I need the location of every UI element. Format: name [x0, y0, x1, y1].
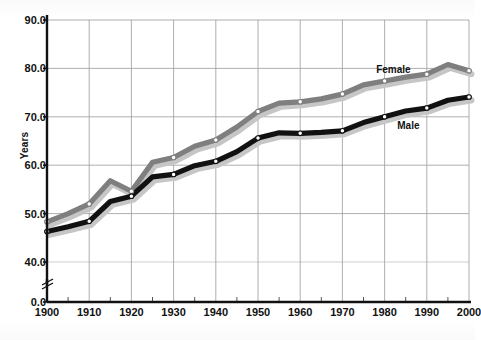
data-point-marker [129, 189, 134, 194]
data-point-marker [256, 136, 261, 141]
data-point-marker [340, 92, 345, 97]
data-point-marker [171, 155, 176, 160]
data-point-marker [467, 69, 472, 74]
data-point-marker [256, 109, 261, 114]
data-point-marker [425, 72, 430, 77]
data-point-marker [214, 138, 219, 143]
data-point-marker [214, 159, 219, 164]
series-label-male: Male [397, 120, 419, 131]
data-point-marker [467, 95, 472, 100]
data-point-marker [298, 131, 303, 136]
data-point-marker [382, 115, 387, 120]
data-point-marker [298, 100, 303, 105]
gridlines [47, 20, 469, 302]
data-point-marker [425, 106, 430, 111]
series-shadows [49, 68, 471, 235]
data-point-marker [382, 79, 387, 84]
axes [42, 15, 471, 302]
data-point-marker [340, 129, 345, 134]
data-point-marker [129, 194, 134, 199]
data-point-marker [87, 202, 92, 207]
series-label-female: Female [376, 64, 410, 75]
data-point-marker [171, 172, 176, 177]
data-point-marker [87, 219, 92, 224]
